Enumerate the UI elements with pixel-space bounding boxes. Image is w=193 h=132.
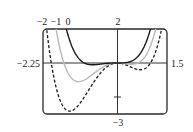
x-min-label: −2.25 [17,58,40,69]
x-max-label: 1.5 [171,58,184,69]
curve-label-c-0: 0 [66,16,71,27]
curves [43,12,167,111]
curve-label-c-minus-1: −1 [51,16,62,27]
y-max-label: 2 [116,16,121,27]
chart: −2.25 1.5 2 −3 −2 −1 0 [0,0,193,132]
curve-label-c-minus-2: −2 [37,16,48,27]
curve-1 [43,12,167,82]
plot-frame [43,29,167,114]
curve-0 [43,12,167,111]
y-min-label: −3 [113,117,124,128]
